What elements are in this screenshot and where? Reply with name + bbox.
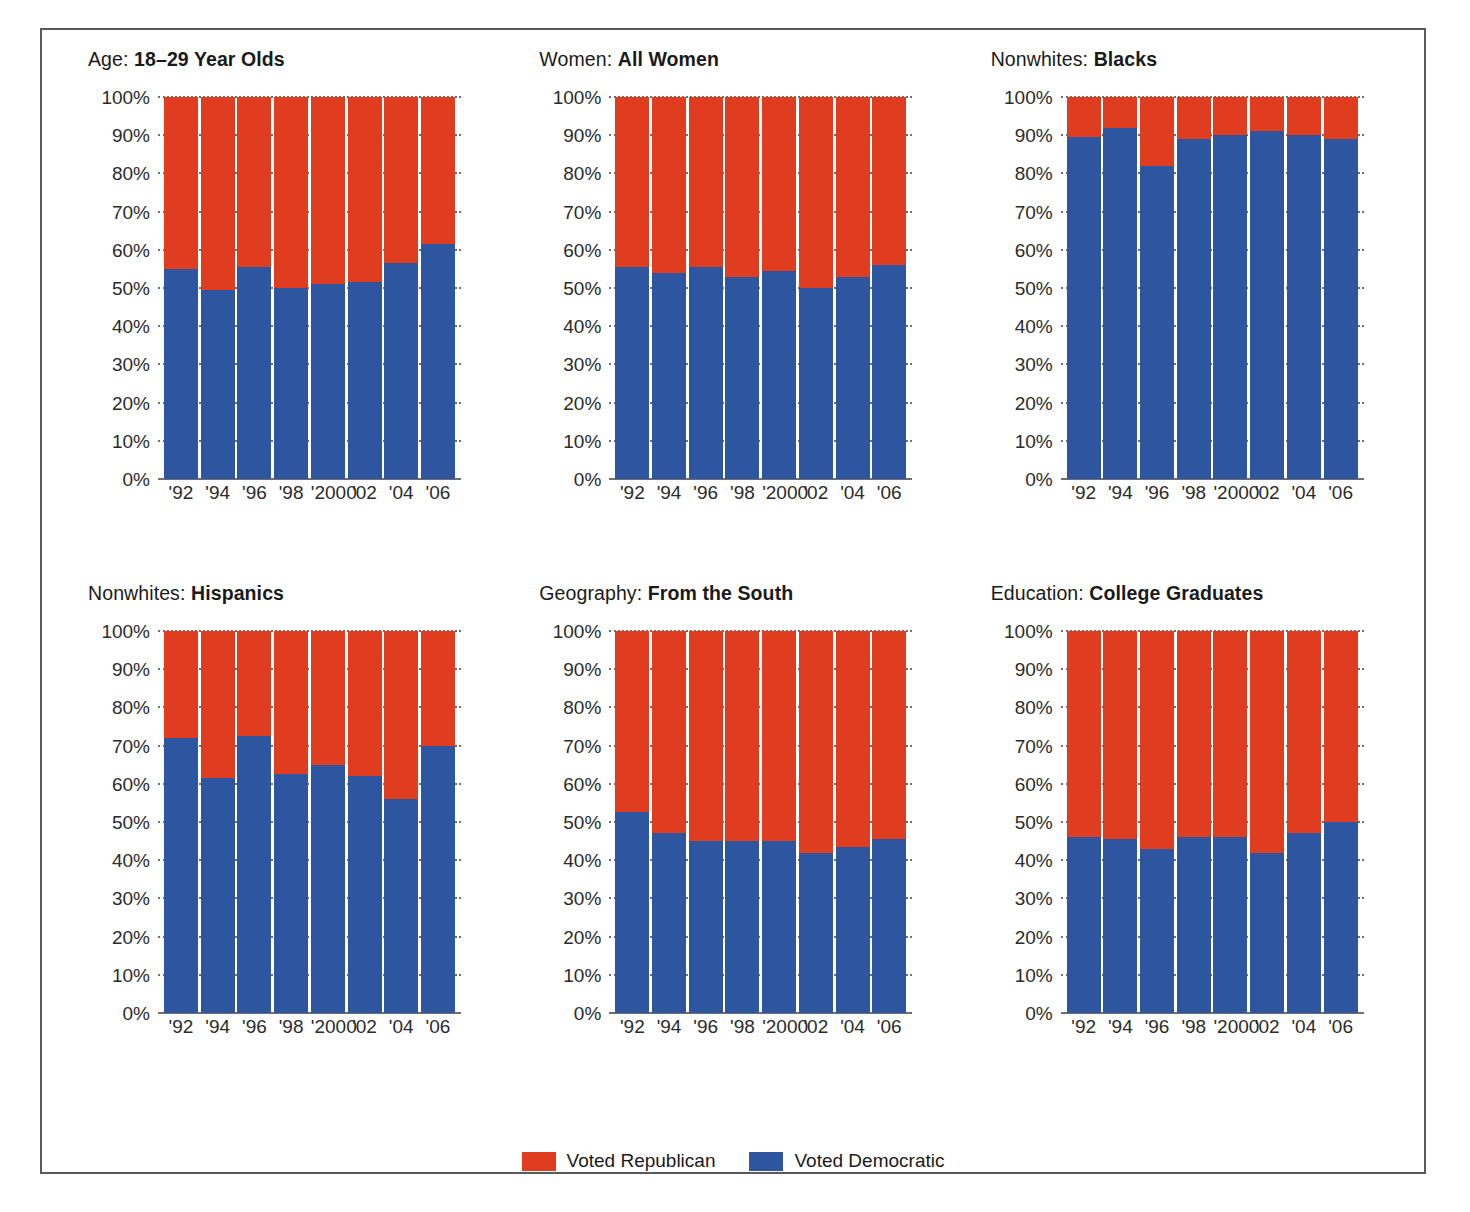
bar-age-18-29-1[interactable] [201, 97, 235, 479]
bar-nonwhites-blacks-2[interactable] [1140, 97, 1174, 479]
bar-segment-republican [348, 631, 382, 776]
bar-geography-south-5[interactable] [799, 631, 833, 1013]
bar-nonwhites-blacks-5[interactable] [1250, 97, 1284, 479]
bar-segment-democratic [274, 288, 308, 479]
bar-education-college-4[interactable] [1213, 631, 1247, 1013]
bar-education-college-7[interactable] [1324, 631, 1358, 1013]
plot-area-nonwhites-hispanics: 100%90%80%70%60%50%40%30%20%10%0%'92'94'… [86, 631, 461, 1043]
bars-container [158, 97, 461, 479]
bar-nonwhites-blacks-1[interactable] [1103, 97, 1137, 479]
legend-item-democratic[interactable]: Voted Democratic [749, 1150, 944, 1172]
y-axis-tick-label: 10% [112, 965, 150, 987]
bar-nonwhites-blacks-7[interactable] [1324, 97, 1358, 479]
bar-segment-democratic [872, 839, 906, 1013]
bar-age-18-29-2[interactable] [237, 97, 271, 479]
bar-education-college-0[interactable] [1067, 631, 1101, 1013]
bar-segment-republican [421, 631, 455, 746]
bar-segment-democratic [836, 847, 870, 1013]
y-axis-tick-label: 10% [1015, 431, 1053, 453]
bars-container [1061, 97, 1364, 479]
bar-geography-south-4[interactable] [762, 631, 796, 1013]
y-axis-tick-label: 80% [112, 697, 150, 719]
bar-segment-democratic [1177, 837, 1211, 1013]
bar-education-college-5[interactable] [1250, 631, 1284, 1013]
legend-swatch-icon [749, 1152, 783, 1171]
bar-age-18-29-0[interactable] [164, 97, 198, 479]
y-axis-tick-label: 10% [563, 431, 601, 453]
y-axis-tick-label: 60% [563, 774, 601, 796]
bar-education-college-1[interactable] [1103, 631, 1137, 1013]
x-axis-tick-label: '2000 [311, 479, 345, 509]
legend-item-republican[interactable]: Voted Republican [522, 1150, 716, 1172]
bar-geography-south-3[interactable] [725, 631, 759, 1013]
bar-women-all-5[interactable] [799, 97, 833, 479]
bar-segment-democratic [421, 746, 455, 1013]
y-axis-tick-label: 60% [563, 240, 601, 262]
x-axis-tick-label: '96 [1140, 479, 1174, 509]
bar-segment-democratic [799, 853, 833, 1013]
bar-segment-republican [201, 97, 235, 290]
y-axis-tick-label: 70% [563, 202, 601, 224]
bar-women-all-3[interactable] [725, 97, 759, 479]
bar-nonwhites-blacks-3[interactable] [1177, 97, 1211, 479]
x-axis-tick-label: '04 [836, 1013, 870, 1043]
bar-nonwhites-hispanics-0[interactable] [164, 631, 198, 1013]
panel-geography-south: Geography: From the South100%90%80%70%60… [507, 582, 958, 1128]
y-axis-tick-label: 60% [112, 774, 150, 796]
y-axis-tick-label: 50% [1015, 812, 1053, 834]
bar-nonwhites-blacks-4[interactable] [1213, 97, 1247, 479]
bar-nonwhites-hispanics-4[interactable] [311, 631, 345, 1013]
x-axis-tick-label: '98 [274, 479, 308, 509]
y-axis-tick-label: 40% [1015, 316, 1053, 338]
bar-women-all-4[interactable] [762, 97, 796, 479]
y-axis-tick-label: 90% [1015, 125, 1053, 147]
bar-age-18-29-6[interactable] [384, 97, 418, 479]
bar-women-all-6[interactable] [836, 97, 870, 479]
bar-geography-south-7[interactable] [872, 631, 906, 1013]
x-axis-tick-label: '06 [421, 479, 455, 509]
x-axis-tick-label: '94 [1103, 1013, 1137, 1043]
bar-nonwhites-hispanics-2[interactable] [237, 631, 271, 1013]
bar-education-college-3[interactable] [1177, 631, 1211, 1013]
bar-segment-republican [1250, 631, 1284, 853]
bar-age-18-29-3[interactable] [274, 97, 308, 479]
y-axis-tick-label: 10% [112, 431, 150, 453]
bar-geography-south-2[interactable] [689, 631, 723, 1013]
bar-segment-democratic [164, 738, 198, 1013]
panel-title-age-18-29: Age: 18–29 Year Olds [88, 48, 507, 71]
bar-geography-south-0[interactable] [615, 631, 649, 1013]
bar-education-college-6[interactable] [1287, 631, 1321, 1013]
bar-geography-south-1[interactable] [652, 631, 686, 1013]
panel-title-group: All Women [618, 48, 719, 70]
bar-segment-republican [311, 631, 345, 765]
bar-segment-republican [1287, 97, 1321, 135]
y-axis-tick-label: 20% [112, 927, 150, 949]
bar-women-all-2[interactable] [689, 97, 723, 479]
bar-age-18-29-7[interactable] [421, 97, 455, 479]
bar-segment-democratic [799, 288, 833, 479]
y-axis-tick-label: 10% [563, 965, 601, 987]
bar-women-all-7[interactable] [872, 97, 906, 479]
bar-age-18-29-5[interactable] [348, 97, 382, 479]
bar-women-all-0[interactable] [615, 97, 649, 479]
bar-nonwhites-hispanics-3[interactable] [274, 631, 308, 1013]
bar-women-all-1[interactable] [652, 97, 686, 479]
bar-age-18-29-4[interactable] [311, 97, 345, 479]
x-axis-tick-label: '98 [1177, 1013, 1211, 1043]
bar-nonwhites-hispanics-1[interactable] [201, 631, 235, 1013]
bar-education-college-2[interactable] [1140, 631, 1174, 1013]
bar-segment-democratic [872, 265, 906, 479]
bar-nonwhites-hispanics-5[interactable] [348, 631, 382, 1013]
y-axis-tick-label: 90% [563, 125, 601, 147]
bar-nonwhites-blacks-0[interactable] [1067, 97, 1101, 479]
bar-segment-democratic [348, 776, 382, 1013]
bar-nonwhites-blacks-6[interactable] [1287, 97, 1321, 479]
x-axis-tick-label: '96 [689, 479, 723, 509]
y-axis-tick-label: 30% [563, 888, 601, 910]
bar-nonwhites-hispanics-6[interactable] [384, 631, 418, 1013]
panel-title-women-all: Women: All Women [539, 48, 958, 71]
bar-geography-south-6[interactable] [836, 631, 870, 1013]
y-axis-tick-label: 70% [563, 736, 601, 758]
bar-nonwhites-hispanics-7[interactable] [421, 631, 455, 1013]
plot-area-nonwhites-blacks: 100%90%80%70%60%50%40%30%20%10%0%'92'94'… [989, 97, 1364, 509]
